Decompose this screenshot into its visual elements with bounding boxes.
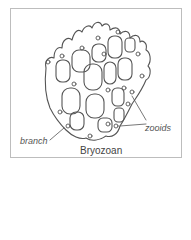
figure-caption: Bryozoan	[80, 146, 122, 156]
zooids-leader-line-2	[120, 124, 146, 126]
zooids-label: zooids	[145, 124, 171, 133]
zooids-leader-line-1	[132, 96, 146, 120]
branch-leader-line	[50, 128, 64, 140]
branch-label: branch	[20, 137, 48, 146]
